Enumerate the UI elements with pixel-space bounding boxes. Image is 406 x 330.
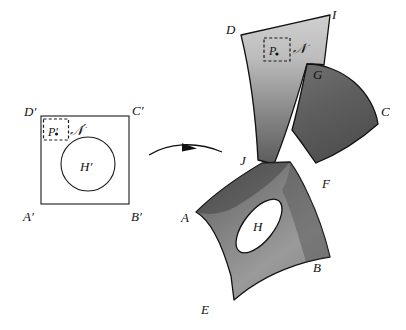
deformed-configuration-group: D I G C J F A B E H P 𝒩 xyxy=(180,7,390,317)
label-E: E xyxy=(200,302,209,317)
label-D-prime: D′ xyxy=(23,104,36,119)
label-G: G xyxy=(313,67,323,82)
label-A-prime: A′ xyxy=(22,209,34,224)
mapping-arrow-group xyxy=(149,143,222,155)
label-I: I xyxy=(331,7,337,22)
label-H: H xyxy=(252,219,263,234)
reference-configuration-group: D′ C′ A′ B′ P′ 𝒩′ H′ xyxy=(22,103,144,224)
label-D: D xyxy=(225,22,236,37)
label-C: C xyxy=(381,104,390,119)
figure-canvas: D′ C′ A′ B′ P′ 𝒩′ H′ xyxy=(0,0,406,330)
label-B: B xyxy=(313,260,321,275)
deformed-wing-panel xyxy=(292,64,378,163)
label-F: F xyxy=(321,176,331,191)
label-B-prime: B′ xyxy=(131,209,142,224)
label-H-prime: H′ xyxy=(79,159,92,174)
label-P-prime: P′ xyxy=(47,125,58,139)
label-J: J xyxy=(240,153,247,168)
label-A: A xyxy=(180,210,189,225)
diagram-svg: D′ C′ A′ B′ P′ 𝒩′ H′ xyxy=(0,0,406,330)
label-P: P xyxy=(268,44,277,58)
label-N-prime: 𝒩′ xyxy=(70,122,88,138)
label-C-prime: C′ xyxy=(132,103,144,118)
